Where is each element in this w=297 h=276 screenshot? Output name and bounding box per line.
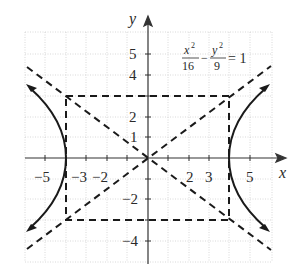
x-tick-label: −3 — [71, 169, 87, 185]
eq-denominator-16: 16 — [182, 59, 194, 73]
x-tick-label: 2 — [186, 169, 194, 185]
arrow-up-right-icon — [259, 84, 270, 92]
x-tick-label: −2 — [92, 169, 108, 185]
y-axis-arrow-icon — [144, 16, 152, 26]
x-axis-arrow-icon — [276, 154, 286, 162]
x-tick-label: 3 — [205, 169, 213, 185]
eq-minus: − — [201, 51, 208, 65]
x-tick-label: −5 — [34, 169, 50, 185]
y-tick-label: 4 — [129, 67, 137, 83]
y-tick-label: −2 — [122, 191, 138, 207]
eq-denominator-9: 9 — [214, 59, 220, 73]
arrow-down-left-icon — [26, 224, 37, 232]
eq-numerator-y: y — [211, 43, 218, 57]
y-axis-label: y — [127, 10, 137, 28]
eq-numerator-x: x — [183, 43, 190, 57]
eq-rhs: = 1 — [228, 51, 246, 66]
y-tick-label: 2 — [129, 109, 137, 125]
equation-annotation: x 2 16 − y 2 9 = 1 — [182, 41, 246, 73]
y-tick-label: −4 — [122, 233, 138, 249]
hyperbola-graph: x y −5 −3 −2 2 3 5 5 4 2 1 −2 −4 x 2 16 … — [0, 0, 297, 276]
eq-exponent-1: 2 — [191, 41, 195, 50]
arrow-up-left-icon — [26, 84, 37, 92]
y-tick-label: 5 — [129, 46, 137, 62]
x-axis-label: x — [278, 164, 286, 181]
eq-exponent-2: 2 — [219, 41, 223, 50]
arrow-down-right-icon — [259, 224, 270, 232]
x-tick-label: 5 — [246, 169, 254, 185]
y-tick-label: 1 — [130, 129, 138, 145]
